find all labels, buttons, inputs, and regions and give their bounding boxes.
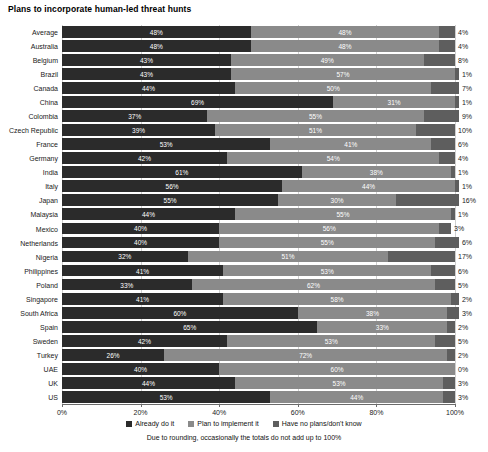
- bar-segment: 37%: [62, 110, 207, 122]
- bar-value-label: 56%: [166, 183, 179, 190]
- legend-label: Already do it: [135, 420, 174, 427]
- chart-row: US53%44%3%: [62, 390, 455, 404]
- x-tick-label: 100%: [446, 409, 464, 416]
- bar-segment: 2%: [451, 293, 459, 305]
- bar-segment: 38%: [302, 166, 451, 178]
- bar-segment: 62%: [192, 279, 436, 291]
- y-axis-category-label: UK: [48, 379, 58, 386]
- x-tick-label: 40%: [212, 409, 226, 416]
- chart-row: India61%38%1%: [62, 165, 455, 179]
- y-axis-category-label: Belgium: [33, 57, 58, 64]
- chart-row: Sweden42%53%5%: [62, 334, 455, 348]
- bar-segment: 60%: [62, 307, 298, 319]
- bar-value-label: 1%: [462, 71, 472, 78]
- bar-value-label: 44%: [142, 379, 155, 386]
- bar-value-label: 51%: [281, 253, 294, 260]
- legend-item[interactable]: Have no plans/don't know: [273, 420, 362, 427]
- y-axis-category-label: India: [43, 169, 58, 176]
- bar-segment: 16%: [396, 194, 459, 206]
- bar-value-label: 6%: [458, 267, 468, 274]
- bar-segment: 56%: [62, 180, 282, 192]
- bar-value-label: 38%: [370, 169, 383, 176]
- bar-segment: 48%: [251, 40, 440, 52]
- y-axis-category-label: Canada: [33, 85, 58, 92]
- bar-value-label: 61%: [175, 169, 188, 176]
- bar-segment: 44%: [282, 180, 455, 192]
- bar-value-label: 50%: [327, 85, 340, 92]
- bar-value-label: 41%: [136, 295, 149, 302]
- x-tick-mark: [141, 404, 142, 407]
- chart-footnote: Due to rounding, occasionally the totals…: [0, 434, 488, 441]
- chart-row: UK44%53%3%: [62, 376, 455, 390]
- bar-value-label: 41%: [136, 267, 149, 274]
- bar-value-label: 1%: [462, 183, 472, 190]
- chart-row: France53%41%6%: [62, 137, 455, 151]
- x-tick-mark: [219, 404, 220, 407]
- bar-segment: 7%: [431, 82, 459, 94]
- x-tick-label: 0%: [57, 409, 67, 416]
- bar-segment: 53%: [62, 391, 270, 403]
- chart-row: Singapore41%58%2%: [62, 292, 455, 306]
- bar-segment: 33%: [317, 321, 447, 333]
- bar-value-label: 65%: [183, 323, 196, 330]
- bar-segment: 1%: [455, 96, 459, 108]
- y-axis-category-label: Germany: [29, 155, 58, 162]
- bar-value-label: 54%: [327, 155, 340, 162]
- bar-value-label: 43%: [140, 56, 153, 63]
- bar-value-label: 55%: [336, 211, 349, 218]
- bar-segment: 1%: [455, 68, 459, 80]
- y-axis-category-label: France: [36, 141, 58, 148]
- bar-value-label: 60%: [173, 309, 186, 316]
- bar-value-label: 58%: [331, 295, 344, 302]
- y-axis-category-label: Brazil: [40, 71, 58, 78]
- x-tick-mark: [298, 404, 299, 407]
- bar-segment: 55%: [235, 208, 451, 220]
- bar-segment: 43%: [62, 68, 231, 80]
- bar-value-label: 26%: [107, 351, 120, 358]
- bar-value-label: 3%: [454, 225, 464, 232]
- bar-segment: 41%: [62, 293, 223, 305]
- y-axis-category-label: US: [48, 393, 58, 400]
- chart-row: Japan55%30%16%: [62, 193, 455, 207]
- bar-value-label: 5%: [458, 337, 468, 344]
- bar-segment: 44%: [270, 391, 443, 403]
- legend-label: Have no plans/don't know: [282, 420, 362, 427]
- x-tick-mark: [376, 404, 377, 407]
- bar-value-label: 3%: [458, 393, 468, 400]
- bar-segment: 5%: [435, 279, 455, 291]
- bar-value-label: 51%: [309, 127, 322, 134]
- bar-segment: 58%: [223, 293, 451, 305]
- bar-segment: 4%: [439, 40, 455, 52]
- chart-legend: Already do itPlan to implement itHave no…: [0, 420, 488, 427]
- chart-row: Germany42%54%4%: [62, 151, 455, 165]
- bar-segment: 41%: [270, 138, 431, 150]
- bar-value-label: 30%: [331, 197, 344, 204]
- bar-segment: 1%: [455, 180, 459, 192]
- bar-segment: 57%: [231, 68, 455, 80]
- bar-segment: 31%: [333, 96, 455, 108]
- bar-segment: 53%: [235, 377, 443, 389]
- bar-value-label: 0%: [458, 365, 468, 372]
- bar-value-label: 4%: [458, 28, 468, 35]
- y-axis-category-label: Poland: [36, 281, 58, 288]
- chart-row: Australia48%48%4%: [62, 39, 455, 53]
- legend-item[interactable]: Plan to implement it: [188, 420, 258, 427]
- bar-segment: 55%: [207, 110, 423, 122]
- chart-row: Turkey26%72%2%: [62, 348, 455, 362]
- bar-segment: 49%: [231, 54, 424, 66]
- y-axis-category-label: Mexico: [36, 225, 58, 232]
- y-axis-category-label: Average: [32, 29, 58, 36]
- bar-segment: 6%: [431, 138, 455, 150]
- chart-row: Spain65%33%2%: [62, 320, 455, 334]
- x-tick-mark: [455, 404, 456, 407]
- y-axis-category-label: Japan: [39, 197, 58, 204]
- bar-value-label: 42%: [138, 155, 151, 162]
- bar-segment: 42%: [62, 335, 227, 347]
- y-axis-category-label: Malaysia: [30, 211, 58, 218]
- bar-segment: 4%: [439, 26, 455, 38]
- bar-segment: 53%: [223, 265, 431, 277]
- legend-item[interactable]: Already do it: [126, 420, 174, 427]
- bar-segment: 53%: [62, 138, 270, 150]
- x-axis-line: [62, 404, 455, 405]
- bar-segment: 1%: [451, 208, 455, 220]
